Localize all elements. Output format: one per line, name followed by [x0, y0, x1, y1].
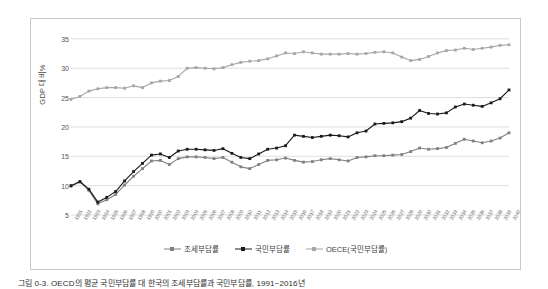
data-point: [508, 43, 511, 46]
data-point: [356, 53, 359, 56]
data-point: [347, 160, 350, 163]
data-point: [150, 160, 153, 163]
data-point: [257, 163, 260, 166]
y-axis-tick-labels: 5101520253035: [45, 33, 71, 215]
data-point: [338, 158, 341, 161]
data-point: [436, 147, 439, 150]
data-point: [123, 184, 126, 187]
data-point: [320, 135, 323, 138]
data-point: [195, 66, 198, 69]
y-axis-tick: 25: [61, 94, 69, 101]
data-point: [159, 80, 162, 83]
data-point: [382, 50, 385, 53]
data-point: [239, 61, 242, 64]
data-point: [508, 131, 511, 134]
data-point: [463, 138, 466, 141]
data-point: [141, 162, 144, 165]
data-point: [329, 134, 332, 137]
data-point: [356, 131, 359, 134]
data-point: [105, 86, 108, 89]
data-point: [302, 50, 305, 53]
data-point: [266, 57, 269, 60]
data-point: [445, 111, 448, 114]
data-point: [472, 104, 475, 107]
legend-item[interactable]: 국민부담률: [235, 243, 290, 254]
data-point: [96, 201, 99, 204]
series-국민부담률: [70, 89, 511, 204]
data-point: [141, 167, 144, 170]
data-point: [445, 146, 448, 149]
data-point: [338, 134, 341, 137]
data-point: [150, 82, 153, 85]
data-point: [213, 149, 216, 152]
data-point: [463, 47, 466, 50]
data-point: [275, 147, 278, 150]
series-line: [71, 90, 509, 202]
data-point: [365, 52, 368, 55]
data-point: [231, 152, 234, 155]
data-point: [222, 66, 225, 69]
data-point: [213, 67, 216, 70]
data-point: [266, 148, 269, 151]
data-point: [311, 52, 314, 55]
data-point: [248, 60, 251, 63]
legend-item[interactable]: OECE(국민부담률): [306, 243, 387, 254]
data-point: [284, 52, 287, 55]
y-axis-tick: 5: [65, 212, 69, 219]
data-point: [356, 156, 359, 159]
data-point: [186, 67, 189, 70]
data-point: [499, 44, 502, 47]
data-point: [141, 86, 144, 89]
data-point: [105, 196, 108, 199]
data-point: [293, 159, 296, 162]
plot-area: [71, 33, 509, 215]
data-point: [132, 170, 135, 173]
data-point: [365, 155, 368, 158]
screenshot-root: GDP 대비% 5101520253035 199119921993199419…: [0, 0, 548, 289]
legend-label: OECE(국민부담률): [326, 243, 387, 254]
data-point: [275, 55, 278, 58]
data-point: [427, 55, 430, 58]
data-point: [159, 153, 162, 156]
data-point: [311, 136, 314, 139]
data-point: [490, 140, 493, 143]
data-point: [391, 121, 394, 124]
data-point: [248, 157, 251, 160]
chart-container: GDP 대비% 5101520253035 199119921993199419…: [30, 18, 521, 270]
data-point: [374, 51, 377, 54]
data-point: [374, 154, 377, 157]
data-point: [70, 184, 73, 187]
data-point: [186, 155, 189, 158]
data-point: [168, 79, 171, 82]
data-point: [150, 154, 153, 157]
data-point: [195, 155, 198, 158]
series-조세부담률: [70, 131, 511, 205]
data-point: [114, 193, 117, 196]
data-point: [445, 49, 448, 52]
legend-marker-icon: [306, 245, 323, 253]
data-point: [177, 157, 180, 160]
data-point: [248, 167, 251, 170]
data-point: [409, 150, 412, 153]
data-point: [275, 158, 278, 161]
data-point: [195, 148, 198, 151]
data-point: [499, 97, 502, 100]
legend-label: 조세부담률: [184, 243, 219, 254]
data-point: [481, 105, 484, 108]
data-point: [284, 144, 287, 147]
data-point: [400, 153, 403, 156]
data-point: [472, 140, 475, 143]
y-axis-tick: 35: [61, 35, 69, 42]
legend-item[interactable]: 조세부담률: [164, 243, 219, 254]
data-point: [436, 52, 439, 55]
data-point: [463, 103, 466, 106]
data-point: [490, 101, 493, 104]
data-point: [222, 156, 225, 159]
data-point: [391, 154, 394, 157]
data-point: [168, 163, 171, 166]
data-point: [79, 95, 82, 98]
data-point: [481, 47, 484, 50]
data-point: [239, 165, 242, 168]
data-point: [382, 122, 385, 125]
data-point: [204, 67, 207, 70]
